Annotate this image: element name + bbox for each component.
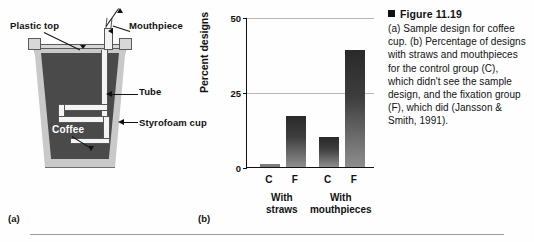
figure-caption-block: Figure 11.19 (a) Sample design for coffe… <box>388 8 526 128</box>
x-tick-label-with-straws-F: F <box>292 174 298 185</box>
tube-vertical-shape <box>101 50 108 122</box>
liquid-flow-arrowhead <box>88 146 94 151</box>
bullet-square-icon <box>388 10 395 17</box>
bar-with-straws-F <box>286 116 306 167</box>
mouthpiece-label: Mouthpiece <box>129 20 183 31</box>
figure-caption-text: (a) Sample design for coffee cup. (b) Pe… <box>388 22 526 128</box>
tube-segment-upper-horizontal <box>58 104 108 111</box>
tube-label: Tube <box>139 86 161 97</box>
panel-a-tag: (a) <box>8 213 20 224</box>
x-tick-label-with-mouthpieces-C: C <box>324 174 331 185</box>
y-tick-label-25: 25 <box>230 88 241 99</box>
group-label-with-straws: Withstraws <box>266 192 298 216</box>
bottom-divider <box>30 234 504 235</box>
y-tick-25 <box>243 93 247 95</box>
y-tick-0 <box>243 168 247 170</box>
bar-with-mouthpieces-F <box>345 50 365 167</box>
bar-with-straws-C <box>260 164 280 167</box>
panel-b-tag: (b) <box>198 213 210 224</box>
cup-illustration: Coffee Plastic top Mouthpiece Tube Styro… <box>0 0 190 215</box>
styrofoam-cup-leader <box>124 122 138 123</box>
lid-rim-left <box>28 38 41 50</box>
coffee-label: Coffee <box>52 124 84 135</box>
tube-arrowhead <box>106 91 112 97</box>
gridline-50 <box>247 18 374 19</box>
y-tick-50 <box>243 18 247 20</box>
plastic-top-label: Plastic top <box>10 20 59 31</box>
mouthpiece-leader <box>113 25 130 32</box>
mouthpiece-arrowhead <box>108 28 113 34</box>
figure-number: Figure 11.19 <box>400 8 462 20</box>
panel-b-bar-chart: Percent designs 02550 CFWithstrawsCFWith… <box>190 0 380 242</box>
tube-leader <box>112 94 138 95</box>
y-axis-title: Percent designs <box>198 12 210 93</box>
figure-container: Coffee Plastic top Mouthpiece Tube Styro… <box>0 0 534 242</box>
bar-with-mouthpieces-C <box>319 137 339 167</box>
group-label-with-mouthpieces: Withmouthpieces <box>310 192 372 216</box>
panel-a-coffee-cup-diagram: Coffee Plastic top Mouthpiece Tube Styro… <box>0 0 190 242</box>
figure-caption-heading: Figure 11.19 <box>388 8 526 20</box>
styrofoam-cup-arrowhead <box>118 119 124 125</box>
x-tick-label-with-mouthpieces-F: F <box>351 174 357 185</box>
plot-area: 02550 <box>246 18 374 168</box>
plastic-top-arrowhead <box>80 45 86 49</box>
lid-rim-right <box>119 38 132 50</box>
y-tick-label-0: 0 <box>236 163 241 174</box>
airflow-arrowhead <box>117 8 123 13</box>
x-tick-label-with-straws-C: C <box>265 174 272 185</box>
y-tick-label-50: 50 <box>230 13 241 24</box>
